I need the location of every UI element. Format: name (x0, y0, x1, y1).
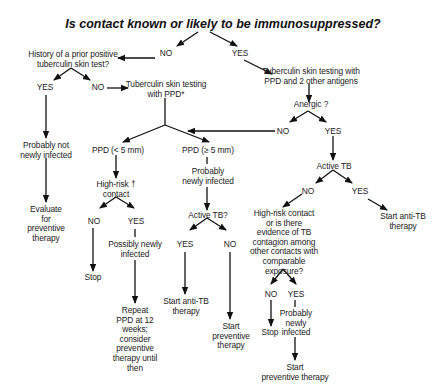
start-preventive-mid-node: Start preventive therapy (212, 322, 250, 351)
probably-not-infected-node: Probably not newly infected (20, 141, 72, 160)
stop-node-left: Stop (85, 273, 102, 283)
ppd-two-antigens-node: Tuberculin skin testing with PPD and 2 o… (262, 67, 359, 86)
repeat-ppd-node: Repeat PPD at 12 weeks; consider prevent… (113, 306, 157, 373)
ppd-less-5mm-node: PPD (< 5 mm) (92, 146, 144, 156)
anergic-question: Anergic ? (294, 100, 328, 110)
stop-node-right: Stop (262, 328, 279, 338)
contagion-no-label: NO (265, 290, 277, 300)
anergic-yes-label: YES (325, 127, 341, 137)
history-no-label: NO (92, 83, 104, 93)
evaluate-preventive-node: Evaluate for preventive therapy (27, 205, 65, 243)
start-anti-tb-mid-node: Start anti-TB therapy (163, 297, 209, 316)
tuberculin-ppd-node: Tuberculin skin testing with PPD* (126, 80, 207, 99)
ppd-greater-5mm-node: PPD (≥ 5 mm) (182, 146, 234, 156)
possibly-newly-infected-node: Possibly newly infected (108, 240, 162, 259)
active-tb-right-no-label: NO (302, 187, 314, 197)
high-risk-contact-question: High-risk † contact (97, 180, 136, 199)
active-tb-mid-no-label: NO (224, 240, 236, 250)
start-anti-tb-right-node: Start anti-TB therapy (380, 212, 426, 231)
probably-newly-infected-right-node: Probably newly infected (280, 309, 312, 338)
contagion-question: High-risk contact or is there evidence o… (250, 209, 318, 276)
high-risk-yes-label: YES (128, 217, 144, 227)
active-tb-mid-yes-label: YES (177, 240, 193, 250)
history-yes-label: YES (37, 83, 53, 93)
root-no-label: NO (160, 49, 172, 59)
probably-newly-infected-mid-node: Probably newly infected (182, 167, 234, 186)
start-preventive-right-node: Start preventive therapy (261, 363, 328, 382)
root-yes-label: YES (232, 49, 248, 59)
history-question: History of a prior positive tuberculin s… (28, 50, 117, 69)
anergic-no-label: NO (277, 127, 289, 137)
active-tb-right-yes-label: YES (352, 187, 368, 197)
active-tb-question-mid: Active TB? (188, 211, 227, 221)
contagion-yes-label: YES (288, 290, 304, 300)
diagram-title: Is contact known or likely to be immunos… (65, 17, 380, 31)
high-risk-no-label: NO (88, 217, 100, 227)
active-tb-right-node: Active TB (317, 162, 352, 172)
